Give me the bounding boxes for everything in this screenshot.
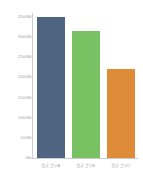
bar-カテゴリC[interactable]	[107, 69, 135, 158]
bar-カテゴリB[interactable]	[72, 31, 100, 158]
x-axis-tick-label: カテゴリA	[41, 164, 60, 168]
y-axis-ticks: 3500K3000K2500K2000K1500K1000K500K0K	[0, 0, 31, 184]
bar-カテゴリA[interactable]	[37, 17, 65, 158]
x-axis-tick-label: カテゴリB	[76, 164, 95, 168]
bars-layer	[33, 13, 138, 158]
x-axis-line	[32, 158, 138, 159]
x-axis-tick-label: カテゴリC	[111, 164, 131, 168]
bar-chart: 3500K3000K2500K2000K1500K1000K500K0K カテゴ…	[0, 0, 143, 184]
